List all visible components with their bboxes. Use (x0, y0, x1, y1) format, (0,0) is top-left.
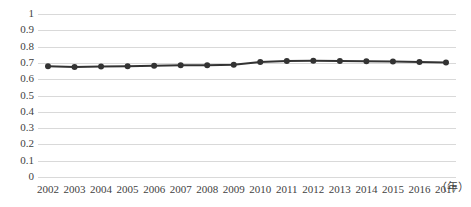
x-tick-label: 2016 (408, 183, 430, 195)
data-point-marker (257, 59, 263, 65)
x-tick-label: 2006 (143, 183, 165, 195)
x-tick-label: 2003 (64, 183, 86, 195)
data-point-marker (310, 58, 316, 64)
y-tick-label: 0.6 (0, 73, 34, 84)
x-tick-label: 2009 (223, 183, 245, 195)
data-point-marker (231, 62, 237, 68)
x-tick-label: 2008 (196, 183, 218, 195)
x-tick-label: 2015 (382, 183, 404, 195)
x-axis: 2002200320042005200620072008200920102011… (38, 181, 471, 203)
x-axis-unit-label: （年） (436, 181, 469, 193)
data-point-marker (204, 62, 210, 68)
x-tick-label: 2007 (170, 183, 192, 195)
y-tick-label: 0.1 (0, 155, 34, 166)
series-polyline (48, 61, 446, 67)
data-point-marker (151, 63, 157, 69)
x-tick-label: 2005 (117, 183, 139, 195)
data-point-marker (390, 59, 396, 65)
y-tick-label: 1 (0, 8, 34, 19)
y-tick-label: 0.5 (0, 90, 34, 101)
data-point-marker (45, 63, 51, 69)
data-point-marker (416, 59, 422, 65)
data-point-marker (337, 58, 343, 64)
y-tick-label: 0.2 (0, 138, 34, 149)
x-tick-label: 2002 (37, 183, 59, 195)
gridline (38, 177, 456, 178)
y-tick-label: 0.9 (0, 24, 34, 35)
data-point-marker (443, 60, 449, 66)
y-tick-label: 0.3 (0, 122, 34, 133)
data-point-marker (125, 63, 131, 69)
y-axis: 00.10.20.30.40.50.60.70.80.91 (0, 14, 34, 177)
x-tick-label: 2004 (90, 183, 112, 195)
data-point-marker (363, 58, 369, 64)
line-chart: 00.10.20.30.40.50.60.70.80.91 2002200320… (0, 0, 471, 207)
y-tick-label: 0.7 (0, 57, 34, 68)
y-tick-label: 0.8 (0, 41, 34, 52)
data-point-marker (98, 63, 104, 69)
x-tick-label: 2011 (276, 183, 298, 195)
data-point-marker (72, 64, 78, 70)
x-tick-label: 2012 (302, 183, 324, 195)
x-tick-label: 2014 (355, 183, 377, 195)
series-line (38, 14, 456, 177)
data-point-marker (178, 62, 184, 68)
data-point-marker (284, 58, 290, 64)
y-tick-label: 0 (0, 171, 34, 182)
x-tick-label: 2010 (249, 183, 271, 195)
y-tick-label: 0.4 (0, 106, 34, 117)
plot-area (38, 14, 456, 177)
x-tick-label: 2013 (329, 183, 351, 195)
